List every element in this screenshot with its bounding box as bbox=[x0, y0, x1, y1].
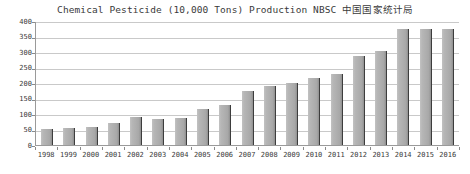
bar-slot bbox=[58, 22, 80, 145]
bar-slot bbox=[259, 22, 281, 145]
chart-container: Chemical Pesticide (10,000 Tons) Product… bbox=[0, 0, 470, 174]
y-axis-tick-label: 400 bbox=[4, 19, 32, 26]
bar-slot bbox=[170, 22, 192, 145]
x-axis-tick-mark bbox=[459, 147, 460, 150]
chart-title: Chemical Pesticide (10,000 Tons) Product… bbox=[0, 2, 470, 16]
bar-slot bbox=[103, 22, 125, 145]
x-axis-tick-mark bbox=[102, 147, 103, 150]
bar[interactable] bbox=[353, 56, 365, 145]
x-axis-tick-label: 2010 bbox=[303, 150, 325, 162]
bar-slot bbox=[81, 22, 103, 145]
x-axis-tick-mark bbox=[147, 147, 148, 150]
bar-slot bbox=[325, 22, 347, 145]
bar-slot bbox=[281, 22, 303, 145]
x-axis-tick-mark bbox=[124, 147, 125, 150]
bar-slot bbox=[147, 22, 169, 145]
bar-slot bbox=[236, 22, 258, 145]
bar[interactable] bbox=[375, 51, 387, 145]
y-axis-tick-label: 50 bbox=[4, 127, 32, 134]
bar[interactable] bbox=[397, 29, 409, 145]
y-axis-tick-label: 100 bbox=[4, 112, 32, 119]
x-axis-tick-mark bbox=[236, 147, 237, 150]
bar[interactable] bbox=[308, 78, 320, 145]
bar[interactable] bbox=[130, 117, 142, 145]
x-axis-tick-mark bbox=[414, 147, 415, 150]
bar[interactable] bbox=[197, 109, 209, 145]
x-axis-tick-label: 2008 bbox=[258, 150, 280, 162]
bar[interactable] bbox=[152, 119, 164, 145]
bar[interactable] bbox=[108, 123, 120, 145]
x-axis: 1998199920002001200220032004200520062007… bbox=[35, 150, 459, 162]
x-axis-tick-label: 2009 bbox=[280, 150, 302, 162]
x-axis-tick-mark bbox=[35, 147, 36, 150]
bar-slot bbox=[303, 22, 325, 145]
y-axis-tick-label: 350 bbox=[4, 34, 32, 41]
x-axis-tick-label: 2015 bbox=[414, 150, 436, 162]
bar[interactable] bbox=[242, 91, 254, 145]
x-axis-tick-mark bbox=[169, 147, 170, 150]
bar[interactable] bbox=[41, 129, 53, 145]
bar-slot bbox=[192, 22, 214, 145]
x-axis-tick-label: 2003 bbox=[147, 150, 169, 162]
bar[interactable] bbox=[442, 29, 454, 145]
bar-slot bbox=[348, 22, 370, 145]
bar[interactable] bbox=[264, 86, 276, 145]
x-axis-tick-mark bbox=[258, 147, 259, 150]
y-axis-tick-label: 150 bbox=[4, 96, 32, 103]
x-axis-tick-label: 1999 bbox=[57, 150, 79, 162]
x-axis-tick-mark bbox=[191, 147, 192, 150]
bar[interactable] bbox=[420, 29, 432, 145]
bar[interactable] bbox=[175, 118, 187, 145]
bars-layer bbox=[36, 22, 459, 145]
bar[interactable] bbox=[331, 74, 343, 145]
x-axis-tick-mark bbox=[57, 147, 58, 150]
x-axis-tick-mark bbox=[347, 147, 348, 150]
x-axis-tick-mark bbox=[437, 147, 438, 150]
x-axis-tick-label: 2012 bbox=[347, 150, 369, 162]
y-axis-tick-label: 300 bbox=[4, 50, 32, 57]
x-axis-tick-label: 2001 bbox=[102, 150, 124, 162]
x-axis-tick-label: 2002 bbox=[124, 150, 146, 162]
x-axis-tick-mark bbox=[280, 147, 281, 150]
bar-slot bbox=[370, 22, 392, 145]
plot-area bbox=[35, 22, 459, 146]
x-axis-tick-label: 1998 bbox=[35, 150, 57, 162]
bar-slot bbox=[125, 22, 147, 145]
x-axis-tick-label: 2004 bbox=[169, 150, 191, 162]
x-axis-tick-mark bbox=[370, 147, 371, 150]
bar-slot bbox=[415, 22, 437, 145]
x-axis-tick-mark bbox=[80, 147, 81, 150]
bar[interactable] bbox=[219, 105, 231, 145]
bar-slot bbox=[214, 22, 236, 145]
bar[interactable] bbox=[86, 127, 98, 145]
y-axis-tick-label: 0 bbox=[4, 143, 32, 150]
bar-slot bbox=[392, 22, 414, 145]
x-axis-tick-label: 2016 bbox=[437, 150, 459, 162]
x-axis-tick-label: 2013 bbox=[370, 150, 392, 162]
x-axis-tick-mark bbox=[392, 147, 393, 150]
x-axis-tick-mark bbox=[325, 147, 326, 150]
y-axis-tick-label: 250 bbox=[4, 65, 32, 72]
x-axis-tick-label: 2006 bbox=[214, 150, 236, 162]
x-axis-tick-mark bbox=[214, 147, 215, 150]
bar[interactable] bbox=[63, 128, 75, 145]
x-axis-tick-label: 2007 bbox=[236, 150, 258, 162]
x-axis-tick-label: 2011 bbox=[325, 150, 347, 162]
y-axis-tick-label: 200 bbox=[4, 81, 32, 88]
x-axis-tick-mark bbox=[303, 147, 304, 150]
bar-slot bbox=[437, 22, 459, 145]
bar[interactable] bbox=[286, 83, 298, 145]
bar-slot bbox=[36, 22, 58, 145]
x-axis-tick-label: 2005 bbox=[191, 150, 213, 162]
x-axis-tick-label: 2000 bbox=[80, 150, 102, 162]
x-axis-tick-label: 2014 bbox=[392, 150, 414, 162]
